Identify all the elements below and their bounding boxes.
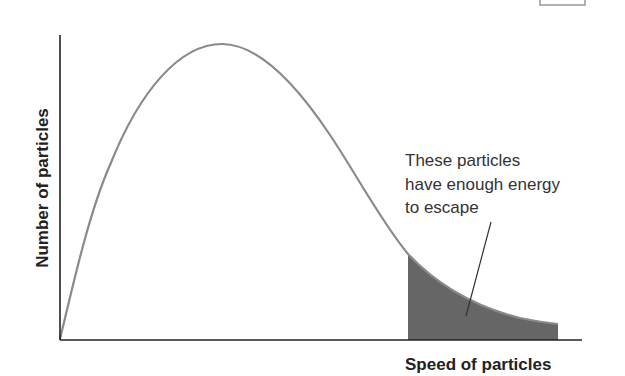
x-axis-label: Speed of particles	[405, 355, 551, 374]
annotation-leader-line	[466, 222, 491, 316]
annotation-line-1: These particles	[405, 151, 520, 170]
speed-distribution-chart: Number of particles Speed of particles T…	[0, 0, 625, 376]
cropped-box-fragment	[540, 0, 585, 5]
annotation-line-3: to escape	[405, 198, 479, 217]
y-axis-label: Number of particles	[33, 108, 52, 268]
shaded-escape-region	[408, 254, 558, 340]
annotation-line-2: have enough energy	[405, 175, 561, 194]
